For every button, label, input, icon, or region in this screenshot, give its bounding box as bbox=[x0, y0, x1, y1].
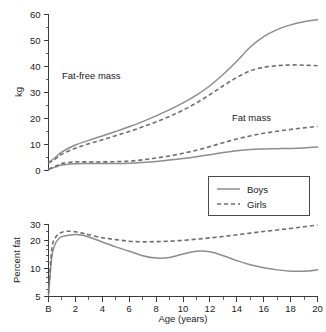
panel-percent-fat: 5102030 B2468101214161820 Percent fat Ag… bbox=[11, 219, 323, 324]
x-tick-label: 8 bbox=[153, 303, 158, 314]
annotation-fat-mass: Fat mass bbox=[232, 112, 271, 123]
kg-y-ticks bbox=[44, 15, 49, 171]
kg-y-tick-label: 20 bbox=[30, 113, 41, 124]
legend-label-girls: Girls bbox=[247, 199, 267, 210]
pf-y-tick-label: 5 bbox=[35, 291, 40, 302]
pf-y-tick-labels: 5102030 bbox=[30, 219, 41, 302]
x-axis-title: Age (years) bbox=[158, 313, 207, 324]
x-tick-label: 18 bbox=[285, 303, 296, 314]
panel-kg: 0102030405060 kg Fat-free mass Fat mass bbox=[13, 9, 318, 176]
x-axis-tick-labels: B2468101214161820 bbox=[45, 303, 322, 314]
kg-y-tick-label: 10 bbox=[30, 139, 41, 150]
x-tick-label: 12 bbox=[205, 303, 216, 314]
x-tick-label: 10 bbox=[178, 303, 189, 314]
curve-boys-fat-free-mass bbox=[49, 20, 318, 163]
x-tick-label: 14 bbox=[232, 303, 243, 314]
chart-svg: 0102030405060 kg Fat-free mass Fat mass … bbox=[0, 0, 326, 332]
pf-y-tick-label: 30 bbox=[30, 219, 41, 230]
pf-y-ticks bbox=[44, 225, 49, 297]
legend: Boys Girls bbox=[209, 177, 310, 216]
kg-y-tick-labels: 0102030405060 bbox=[30, 9, 41, 176]
kg-y-tick-label: 30 bbox=[30, 87, 41, 98]
x-tick-label: 20 bbox=[312, 303, 323, 314]
curve-girls-percent-fat bbox=[49, 225, 318, 293]
x-tick-label: 16 bbox=[258, 303, 269, 314]
annotation-fat-free-mass: Fat-free mass bbox=[62, 70, 121, 81]
x-tick-label: 6 bbox=[127, 303, 132, 314]
figure-body-composition: 0102030405060 kg Fat-free mass Fat mass … bbox=[0, 0, 326, 332]
pf-y-tick-label: 20 bbox=[30, 235, 41, 246]
pf-curves bbox=[49, 225, 318, 295]
x-tick-label: B bbox=[45, 303, 51, 314]
x-tick-label: 2 bbox=[73, 303, 78, 314]
legend-box bbox=[209, 177, 310, 216]
kg-y-tick-label: 40 bbox=[30, 61, 41, 72]
kg-y-tick-label: 0 bbox=[35, 165, 40, 176]
curve-boys-fat-mass bbox=[49, 147, 318, 169]
kg-curves bbox=[49, 20, 318, 170]
kg-axis-title: kg bbox=[13, 87, 24, 97]
curve-boys-percent-fat bbox=[49, 234, 318, 294]
pf-y-tick-label: 10 bbox=[30, 263, 41, 274]
kg-y-tick-label: 60 bbox=[30, 9, 41, 20]
legend-label-boys: Boys bbox=[247, 184, 268, 195]
kg-y-tick-label: 50 bbox=[30, 35, 41, 46]
x-tick-label: 4 bbox=[100, 303, 105, 314]
pf-axis-title: Percent fat bbox=[11, 237, 22, 283]
